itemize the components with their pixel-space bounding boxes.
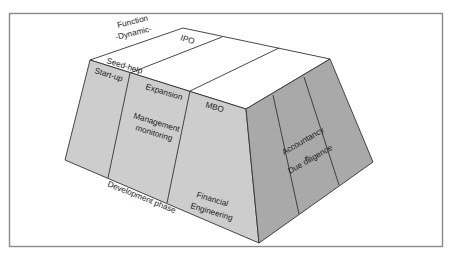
venture-capital-diagram: Function -Dynamic- Seed-help IPO Start-u…	[0, 0, 452, 256]
